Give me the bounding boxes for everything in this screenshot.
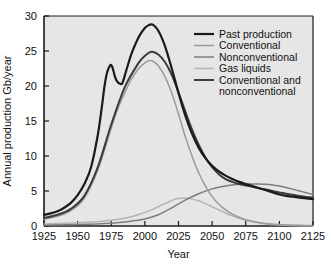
legend-label-5: Conventional and xyxy=(219,74,301,86)
y-tick-label: 5 xyxy=(31,185,37,197)
legend-label-2: Conventional xyxy=(219,39,280,51)
x-tick-label: 1975 xyxy=(99,230,123,242)
y-tick-label: 0 xyxy=(31,220,37,232)
y-tick-label: 15 xyxy=(25,115,37,127)
x-tick-label: 2050 xyxy=(200,230,224,242)
x-tick-label: 1950 xyxy=(65,230,89,242)
x-tick-label: 2100 xyxy=(267,230,291,242)
x-tick-label: 2075 xyxy=(234,230,258,242)
y-tick-label: 20 xyxy=(25,80,37,92)
x-axis-title: Year xyxy=(167,248,190,260)
y-tick-label: 30 xyxy=(25,10,37,22)
y-axis-title: Annual production Gb/year xyxy=(1,55,13,186)
x-tick-label: 2000 xyxy=(133,230,157,242)
y-tick-label: 10 xyxy=(25,150,37,162)
x-tick-label: 2125 xyxy=(301,230,325,242)
production-line-chart: 1925195019752000202520502075210021250510… xyxy=(0,0,331,268)
x-tick-label: 2025 xyxy=(166,230,190,242)
legend-label-5-line2: nonconventional xyxy=(219,85,295,97)
chart-figure: 1925195019752000202520502075210021250510… xyxy=(0,0,331,268)
legend-label-3: Nonconventional xyxy=(219,51,297,63)
legend-label-4: Gas liquids xyxy=(219,62,271,74)
y-tick-label: 25 xyxy=(25,45,37,57)
legend-label-1: Past production xyxy=(219,28,292,40)
